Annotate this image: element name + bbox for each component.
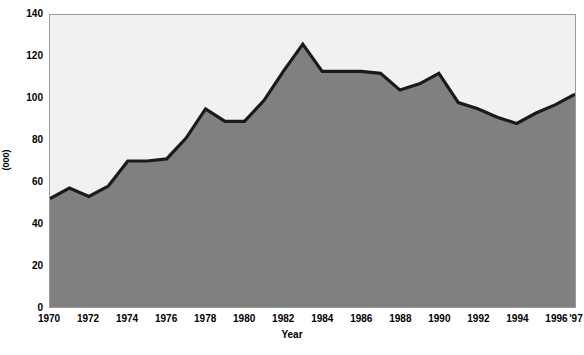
y-tick-label: 20	[32, 261, 43, 271]
x-axis: 1970197219741976197819801982198419861988…	[0, 309, 584, 329]
x-tick-label: 1972	[77, 313, 99, 324]
x-axis-title: Year	[0, 329, 584, 340]
area-chart: (000) 020406080100120140 197019721974197…	[0, 0, 584, 355]
x-tick-label: 1978	[194, 313, 216, 324]
x-tick-label: 1980	[233, 313, 255, 324]
y-axis-title: (000)	[1, 149, 11, 170]
x-tick-label: '97	[569, 313, 583, 324]
x-tick-label: 1976	[155, 313, 177, 324]
x-tick-label: 1986	[350, 313, 372, 324]
x-tick-label: 1994	[506, 313, 528, 324]
area-fill-shape	[50, 44, 575, 307]
x-tick-label: 1982	[272, 313, 294, 324]
y-tick-label: 80	[32, 135, 43, 145]
x-tick-label: 1988	[389, 313, 411, 324]
plot-area	[49, 14, 576, 308]
x-tick-label: 1992	[467, 313, 489, 324]
x-tick-label: 1970	[38, 313, 60, 324]
plot-svg	[50, 15, 575, 307]
y-tick-label: 100	[26, 93, 43, 103]
x-tick-label: 1990	[428, 313, 450, 324]
y-tick-label: 140	[26, 9, 43, 19]
y-tick-label: 40	[32, 219, 43, 229]
y-axis: (000) 020406080100120140	[0, 0, 49, 322]
x-tick-label: 1996	[545, 313, 567, 324]
x-tick-label: 1974	[116, 313, 138, 324]
y-tick-label: 120	[26, 51, 43, 61]
x-tick-label: 1984	[311, 313, 333, 324]
y-tick-label: 60	[32, 177, 43, 187]
